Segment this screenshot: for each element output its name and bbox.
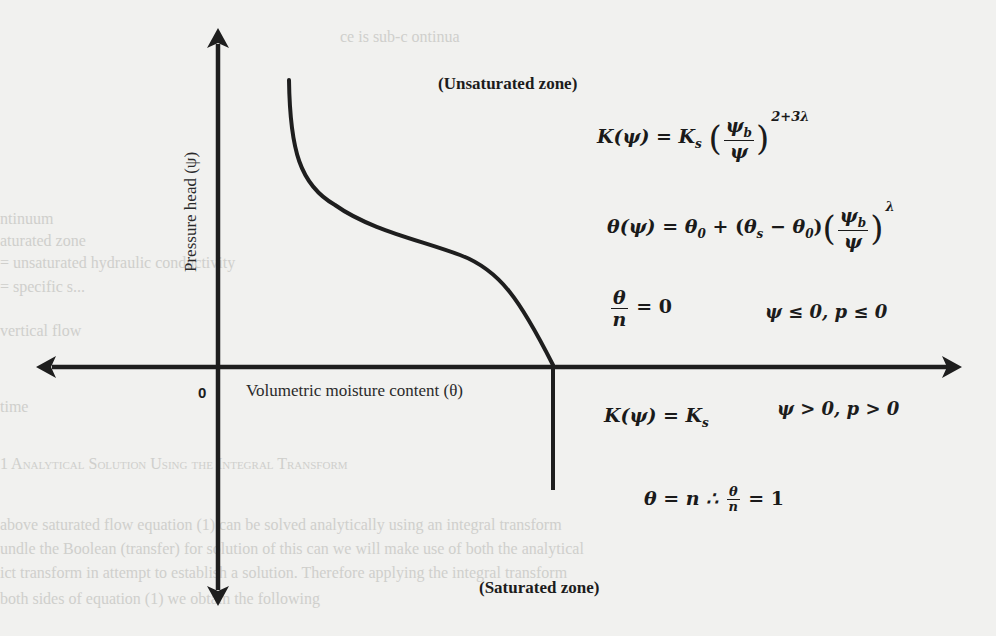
unsaturated-zone-label: (Unsaturated zone): [438, 74, 577, 94]
equation-unsaturated-ratio: θn = 0: [609, 287, 672, 330]
saturated-zone-label: (Saturated zone): [479, 578, 599, 598]
equation-unsaturated-conductivity: K(ψ) = Ks (ψbψ)2+3λ: [597, 115, 809, 162]
equation-saturated-conductivity: K(ψ) = Ks: [604, 404, 709, 430]
retention-curve: [289, 80, 553, 365]
origin-label: 0: [198, 384, 206, 401]
equation-saturated-moisture: θ = n ∴ θn = 1: [644, 485, 784, 515]
saturated-condition: ψ > 0, p > 0: [777, 398, 899, 419]
unsaturated-condition: ψ ≤ 0, p ≤ 0: [765, 301, 887, 322]
equation-unsaturated-moisture: θ(ψ) = θ0 + (θs − θ0)(ψbψ)λ: [607, 205, 895, 252]
y-axis-label: Pressure head (ψ): [181, 152, 201, 272]
x-axis-label: Volumetric moisture content (θ): [246, 381, 463, 401]
